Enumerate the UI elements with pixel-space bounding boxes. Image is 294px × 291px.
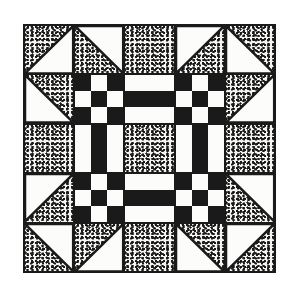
white-patch	[75, 91, 91, 107]
white-patch	[208, 91, 224, 107]
white-triangle-shape	[25, 75, 73, 122]
half-square-triangle-ll	[176, 224, 224, 271]
half-square-triangle-ul	[226, 224, 274, 271]
white-triangle	[25, 26, 73, 73]
white-patch	[75, 125, 91, 172]
white-patch	[192, 75, 208, 91]
white-patch	[91, 206, 107, 222]
black-patch	[107, 206, 123, 222]
white-patch	[192, 174, 208, 190]
white-patch	[208, 125, 224, 172]
white-patch	[107, 91, 123, 107]
white-patch	[208, 190, 224, 206]
white-patch	[125, 174, 173, 190]
half-square-triangle-ll	[226, 26, 274, 73]
black-patch	[176, 206, 192, 222]
speckle-square	[25, 125, 73, 172]
white-patch	[91, 75, 107, 91]
white-triangle	[25, 174, 73, 221]
ninepatch-chain-unit	[176, 174, 224, 221]
ninepatch-chain-unit	[176, 75, 224, 122]
white-patch	[125, 75, 173, 91]
white-triangle	[25, 224, 73, 271]
vertical-rails-unit	[176, 125, 224, 172]
white-patch	[192, 107, 208, 123]
white-patch	[176, 190, 192, 206]
black-patch	[75, 107, 91, 123]
half-square-triangle-ur	[226, 174, 274, 221]
ninepatch-chain-unit	[75, 75, 123, 122]
half-square-triangle-ul	[176, 26, 224, 73]
white-triangle	[176, 26, 224, 73]
speckle-square	[125, 26, 173, 73]
speckle-square	[125, 125, 173, 172]
half-square-triangle-ur	[25, 224, 73, 271]
half-square-triangle-ul	[25, 174, 73, 221]
black-patch	[75, 206, 91, 222]
white-patch	[91, 107, 107, 123]
half-square-triangle-lr	[226, 75, 274, 122]
black-patch	[107, 75, 123, 91]
black-patch	[208, 206, 224, 222]
white-triangle-shape	[25, 224, 73, 271]
white-triangle	[75, 224, 123, 271]
white-triangle-shape	[226, 26, 274, 73]
speckle-square	[226, 125, 274, 172]
white-patch	[75, 190, 91, 206]
black-patch	[75, 174, 91, 190]
half-square-triangle-ll	[25, 75, 73, 122]
half-square-triangle-lr	[25, 26, 73, 73]
white-triangle	[226, 174, 274, 221]
speckle-square	[125, 224, 173, 271]
white-patch	[125, 107, 173, 123]
black-patch	[91, 91, 107, 107]
white-triangle-shape	[176, 26, 224, 73]
white-patch	[192, 206, 208, 222]
white-patch	[125, 206, 173, 222]
white-triangle	[226, 26, 274, 73]
black-patch	[208, 107, 224, 123]
white-patch	[91, 174, 107, 190]
black-patch	[208, 174, 224, 190]
black-patch	[107, 174, 123, 190]
white-patch	[107, 190, 123, 206]
black-patch	[208, 75, 224, 91]
half-square-triangle-ur	[75, 26, 123, 73]
black-patch	[107, 107, 123, 123]
white-triangle-shape	[176, 224, 224, 271]
white-triangle-shape	[25, 26, 73, 73]
half-square-triangle-lr	[75, 224, 123, 271]
black-patch	[176, 174, 192, 190]
black-patch	[176, 107, 192, 123]
quilt-block	[23, 24, 276, 273]
horizontal-rails-unit	[125, 75, 173, 122]
white-patch	[176, 91, 192, 107]
white-triangle	[226, 224, 274, 271]
white-triangle-shape	[226, 174, 274, 221]
black-patch	[192, 190, 208, 206]
vertical-rails-unit	[75, 125, 123, 172]
black-patch	[125, 190, 173, 206]
quilt-pattern-figure	[0, 0, 294, 291]
black-patch	[91, 190, 107, 206]
white-triangle-shape	[25, 174, 73, 221]
black-patch	[91, 125, 107, 172]
white-patch	[176, 125, 192, 172]
horizontal-rails-unit	[125, 174, 173, 221]
white-triangle-shape	[226, 224, 274, 271]
white-triangle	[25, 75, 73, 122]
white-triangle-shape	[226, 75, 274, 122]
white-triangle	[226, 75, 274, 122]
white-triangle	[75, 26, 123, 73]
black-patch	[192, 91, 208, 107]
black-patch	[125, 91, 173, 107]
black-patch	[192, 125, 208, 172]
white-triangle-shape	[75, 224, 123, 271]
black-patch	[176, 75, 192, 91]
ninepatch-chain-unit	[75, 174, 123, 221]
black-patch	[75, 75, 91, 91]
white-triangle	[176, 224, 224, 271]
white-patch	[107, 125, 123, 172]
white-triangle-shape	[75, 26, 123, 73]
